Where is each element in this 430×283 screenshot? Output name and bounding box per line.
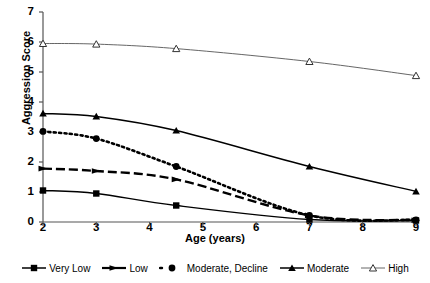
legend-swatch-triangle-filled-icon (279, 262, 305, 274)
series-very-low (40, 187, 419, 223)
data-point-marker (413, 217, 420, 224)
data-point-marker (40, 128, 47, 135)
legend-label: Low (129, 263, 147, 274)
series-line (43, 44, 416, 76)
legend-item-low[interactable]: Low (101, 262, 147, 274)
chart-legend: Very LowLowModerate, DeclineModerateHigh (0, 258, 430, 278)
data-point-marker (172, 177, 181, 183)
legend-swatch-circle-filled-icon (159, 262, 185, 274)
data-point-marker (92, 168, 101, 174)
plot-area (0, 0, 430, 283)
data-point-marker (93, 135, 100, 142)
series-moderate-decline (40, 128, 420, 223)
series-moderate (39, 110, 420, 195)
legend-item-very-low[interactable]: Very Low (21, 262, 90, 274)
data-point-marker (168, 265, 175, 272)
legend-label: Moderate, Decline (187, 263, 268, 274)
data-point-marker (173, 202, 179, 208)
legend-swatch-arrow-icon (101, 262, 127, 274)
data-point-marker (110, 265, 119, 271)
series-line (43, 113, 416, 191)
data-point-marker (306, 212, 313, 219)
data-point-marker (173, 163, 180, 170)
data-point-marker (93, 190, 99, 196)
data-point-marker (40, 187, 46, 193)
legend-item-moderate-decline[interactable]: Moderate, Decline (159, 262, 268, 274)
legend-label: Moderate (307, 263, 349, 274)
legend-item-moderate[interactable]: Moderate (279, 262, 349, 274)
legend-swatch-triangle-open-icon (360, 262, 386, 274)
legend-item-high[interactable]: High (360, 262, 409, 274)
legend-swatch-square-filled-icon (21, 262, 47, 274)
series-high (39, 40, 419, 79)
legend-label: Very Low (49, 263, 90, 274)
aggression-score-line-chart: Aggression Score Age (years) 01234567 23… (0, 0, 430, 283)
legend-label: High (388, 263, 409, 274)
data-point-marker (31, 265, 37, 271)
